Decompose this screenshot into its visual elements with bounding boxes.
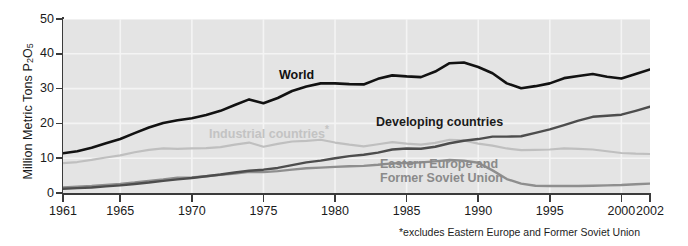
x-tick-label: 1985 [393, 205, 421, 218]
y-tick-label: 20 [30, 117, 54, 130]
series-label-ee-line-2: Former Soviet Union [380, 171, 503, 185]
x-tick-mark [649, 195, 651, 202]
x-tick-mark [334, 195, 336, 202]
series-label-world: World [279, 68, 314, 82]
series-label-developing-countries: Developing countries [376, 115, 503, 129]
series-label-industrial-countries: Industrial countries* [209, 124, 329, 141]
x-tick-mark [263, 195, 265, 202]
x-tick-label: 1965 [106, 205, 134, 218]
x-tick-label: 2000 [607, 205, 635, 218]
x-tick-label: 1995 [536, 205, 564, 218]
series-label-ee-line-1: Eastern Europe and [380, 157, 498, 171]
y-tick-mark [56, 192, 63, 194]
series-canvas [63, 19, 650, 193]
series-label-industrial-text: Industrial countries [209, 127, 325, 141]
x-tick-label: 1990 [464, 205, 492, 218]
x-tick-mark [549, 195, 551, 202]
plot-area [63, 19, 650, 193]
x-tick-mark [62, 195, 64, 202]
x-tick-label: 1980 [321, 205, 349, 218]
x-tick-mark [119, 195, 121, 202]
y-tick-label: 50 [30, 13, 54, 26]
x-tick-mark [621, 195, 623, 202]
series-label-eastern-europe-fsu: Eastern Europe and Former Soviet Union [380, 157, 503, 185]
y-tick-mark [56, 123, 63, 125]
x-tick-mark [406, 195, 408, 202]
x-tick-mark [191, 195, 193, 202]
y-tick-mark [56, 88, 63, 90]
y-tick-mark [56, 18, 63, 20]
x-tick-label: 2002 [636, 205, 664, 218]
footnote-marker-asterisk: * [325, 124, 329, 135]
chart-footnote: *excludes Eastern Europe and Former Sovi… [399, 226, 640, 238]
y-tick-mark [56, 157, 63, 159]
x-tick-label: 1961 [49, 205, 77, 218]
x-tick-label: 1975 [250, 205, 278, 218]
y-tick-label: 30 [30, 82, 54, 95]
series-line-industrial-countries [63, 140, 650, 163]
fertilizer-consumption-line-chart: Million Metric Tons P2O5 50403020100 196… [0, 0, 688, 246]
y-tick-mark [56, 53, 63, 55]
y-tick-label: 10 [30, 152, 54, 165]
x-tick-mark [477, 195, 479, 202]
x-axis-line [62, 193, 651, 195]
series-line-world [63, 63, 650, 154]
y-tick-label: 0 [30, 187, 54, 200]
y-tick-label: 40 [30, 47, 54, 60]
x-tick-label: 1970 [178, 205, 206, 218]
